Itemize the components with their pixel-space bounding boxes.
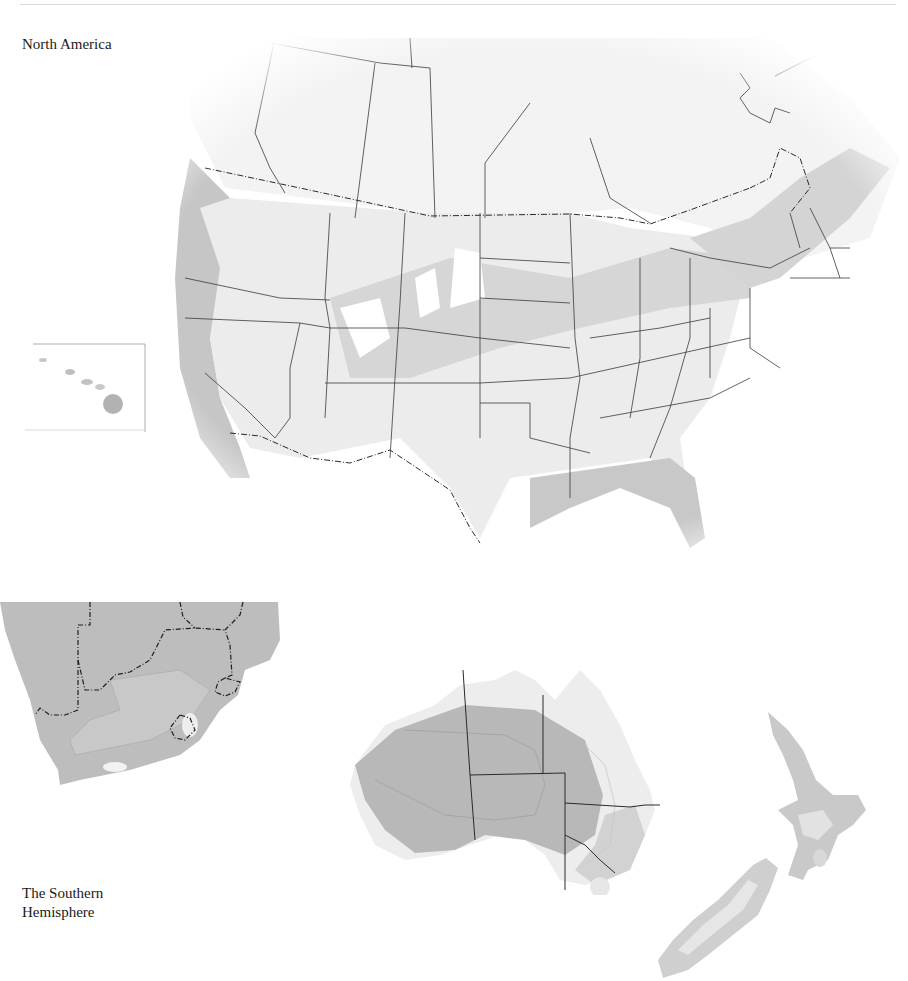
australia-map <box>345 655 665 895</box>
southern-hemisphere-label: The Southern Hemisphere <box>22 884 152 922</box>
hawaii-inset <box>25 342 147 432</box>
north-america-label: North America <box>22 35 112 54</box>
southern-africa-map <box>0 600 285 805</box>
new-zealand-map <box>648 710 908 981</box>
top-rule <box>20 4 896 5</box>
north-america-map <box>150 38 908 553</box>
